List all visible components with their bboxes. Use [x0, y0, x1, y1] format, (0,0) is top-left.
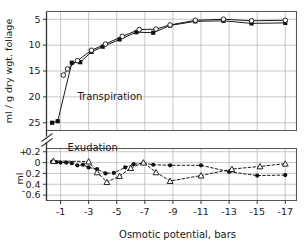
data-point-exudation-filled	[168, 163, 172, 167]
data-point-transpiration-filled	[50, 121, 54, 125]
annotation-exudation-label: Exudation	[68, 142, 118, 153]
x-tick-label: -13	[221, 206, 237, 217]
data-point-transpiration-open	[103, 42, 108, 47]
data-point-transpiration-open	[154, 27, 159, 32]
y-tick-label-top: 15	[28, 65, 40, 76]
y-tick-label-top: 5	[34, 14, 40, 25]
y-tick-label-bottom: 0.6	[25, 189, 40, 200]
data-point-exudation-open	[117, 173, 123, 178]
data-point-transpiration-open	[89, 48, 94, 53]
plot-frame-bottom	[47, 149, 297, 201]
data-point-transpiration-open	[65, 67, 70, 72]
x-tick-label: -5	[112, 206, 121, 217]
x-axis-title: Osmotic potential, bars	[119, 229, 236, 240]
data-point-exudation-filled	[81, 163, 85, 167]
data-point-transpiration-open	[283, 18, 288, 23]
data-point-exudation-filled	[283, 173, 287, 177]
y-tick-label-top: 20	[28, 91, 40, 102]
figure-container: -1-3-5-7-9-11-13-15-175101520250.200.20.…	[0, 0, 308, 252]
grid-lines	[47, 12, 297, 201]
plot-frame	[47, 12, 297, 201]
x-tick-label: -3	[84, 206, 93, 217]
y-tick-label-top: 25	[28, 117, 40, 128]
data-point-transpiration-open	[249, 19, 254, 24]
y-axis-title-top: ml / g dry wgt. foliage	[3, 19, 14, 124]
data-point-transpiration-open	[168, 23, 173, 28]
data-point-transpiration-open	[137, 27, 142, 32]
x-tick-label: -1	[56, 206, 65, 217]
data-point-transpiration-open	[75, 58, 80, 63]
data-point-transpiration-open	[221, 17, 226, 22]
series-line-transpiration-open	[63, 19, 285, 75]
data-point-exudation-filled	[75, 163, 79, 167]
y-tick-label-top: 10	[28, 39, 40, 50]
y-axis-title-bottom: ml	[14, 173, 25, 185]
data-point-exudation-filled	[151, 163, 155, 167]
data-point-exudation-filled	[199, 163, 203, 167]
y-tick-label-bottom: 0.2	[25, 146, 40, 157]
data-point-exudation-filled	[112, 171, 116, 175]
x-tick-label: -11	[193, 206, 209, 217]
data-point-transpiration-filled	[56, 119, 60, 123]
data-point-transpiration-open	[120, 34, 125, 39]
x-tick-label: -7	[140, 206, 149, 217]
y-tick-label-bottom: 0	[34, 157, 40, 168]
y-tick-label-bottom: 0.2	[25, 168, 40, 179]
data-point-exudation-filled	[103, 171, 107, 175]
data-point-transpiration-open	[193, 18, 198, 23]
data-point-transpiration-open	[61, 73, 66, 78]
x-tick-label: -15	[249, 206, 265, 217]
data-point-exudation-filled	[87, 165, 91, 169]
annotation-transpiration-label: Transpiration	[76, 91, 142, 102]
data-point-exudation-filled	[131, 162, 135, 166]
x-tick-label: -9	[168, 206, 177, 217]
data-point-exudation-filled	[123, 165, 127, 169]
x-tick-label: -17	[277, 206, 293, 217]
y-axis-sign-positive: +	[20, 146, 28, 157]
chart-canvas: -1-3-5-7-9-11-13-15-175101520250.200.20.…	[0, 0, 308, 252]
y-axis-sign-negative: -	[22, 185, 25, 196]
data-point-exudation-open	[86, 159, 92, 164]
y-tick-label-bottom: 0.4	[25, 179, 40, 190]
data-point-exudation-filled	[255, 173, 259, 177]
series-line-transpiration-filled	[52, 21, 285, 123]
